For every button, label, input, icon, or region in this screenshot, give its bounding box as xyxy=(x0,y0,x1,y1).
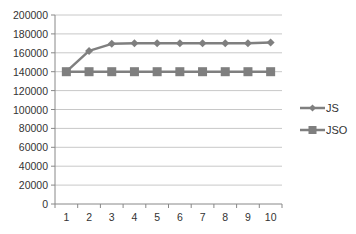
diamond-marker-icon xyxy=(108,40,116,48)
y-tick-label: 160000 xyxy=(13,47,48,59)
x-tick-label: 2 xyxy=(86,211,92,223)
diamond-marker-icon xyxy=(153,39,161,47)
y-tick-label: 20000 xyxy=(19,179,48,191)
diamond-marker-icon xyxy=(130,39,138,47)
legend-item-js[interactable]: JS xyxy=(300,102,339,114)
y-tick-label: 60000 xyxy=(19,141,48,153)
y-tick-label: 120000 xyxy=(13,85,48,97)
diamond-marker-icon xyxy=(267,38,275,46)
line-chart: 0200004000060000800001000001200001400001… xyxy=(0,0,356,234)
square-marker-icon xyxy=(266,67,275,76)
x-tick-label: 1 xyxy=(63,211,69,223)
y-tick-label: 200000 xyxy=(13,9,48,21)
x-tick-label: 4 xyxy=(132,211,138,223)
diamond-marker-icon xyxy=(176,39,184,47)
square-marker-icon xyxy=(130,67,139,76)
x-tick-label: 9 xyxy=(245,211,251,223)
y-tick-label: 100000 xyxy=(13,104,48,116)
y-tick-label: 0 xyxy=(42,198,48,210)
square-marker-icon xyxy=(198,67,207,76)
square-marker-icon xyxy=(153,67,162,76)
y-axis: 0200004000060000800001000001200001400001… xyxy=(13,9,55,210)
legend-label-js: JS xyxy=(326,102,339,114)
diamond-marker-icon xyxy=(244,39,252,47)
square-marker-icon xyxy=(85,67,94,76)
x-tick-label: 10 xyxy=(265,211,277,223)
legend-item-jso[interactable]: JSO xyxy=(300,124,348,136)
y-tick-label: 40000 xyxy=(19,160,48,172)
series-js xyxy=(62,38,274,75)
x-tick-label: 3 xyxy=(109,211,115,223)
series-group xyxy=(62,38,275,76)
square-marker-icon xyxy=(221,67,230,76)
square-marker-icon xyxy=(107,67,116,76)
x-tick-label: 5 xyxy=(154,211,160,223)
square-marker-icon xyxy=(243,67,252,76)
x-tick-label: 7 xyxy=(200,211,206,223)
x-axis: 12345678910 xyxy=(55,204,282,223)
y-tick-label: 180000 xyxy=(13,28,48,40)
diamond-marker-icon xyxy=(199,39,207,47)
legend: JS JSO xyxy=(300,102,348,136)
legend-label-jso: JSO xyxy=(326,124,348,136)
y-tick-label: 80000 xyxy=(19,122,48,134)
series-jso xyxy=(62,67,275,76)
square-marker-icon xyxy=(175,67,184,76)
y-tick-label: 140000 xyxy=(13,66,48,78)
series-line xyxy=(66,42,270,71)
diamond-marker-icon xyxy=(309,105,316,112)
x-tick-label: 8 xyxy=(222,211,228,223)
square-marker-icon xyxy=(309,126,317,134)
x-tick-label: 6 xyxy=(177,211,183,223)
diamond-marker-icon xyxy=(221,39,229,47)
